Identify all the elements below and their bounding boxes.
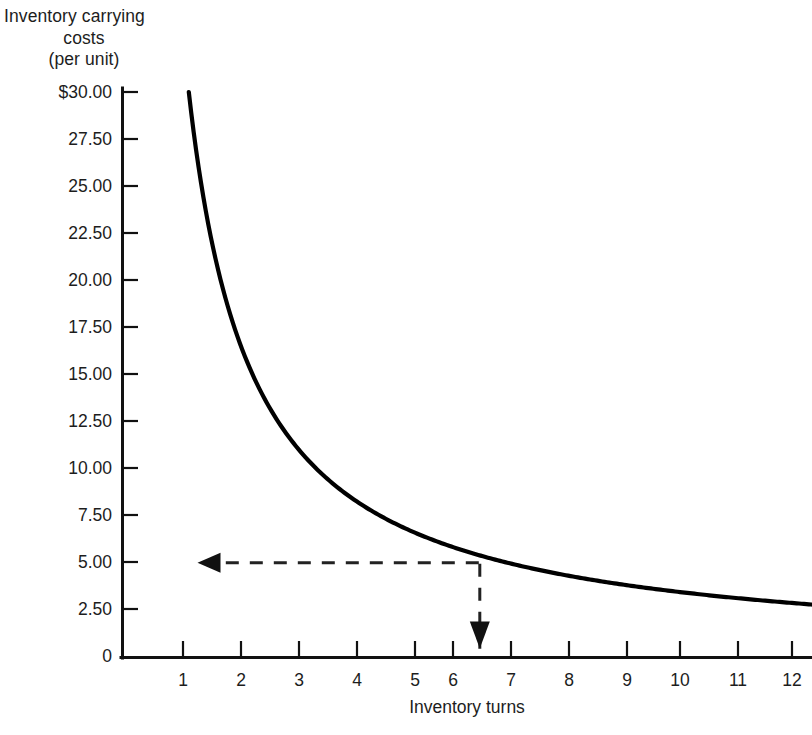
- cost-readout-annotation: [198, 553, 479, 573]
- y-axis-ticks: [122, 92, 138, 609]
- x-axis-ticks: [183, 641, 792, 657]
- cost-readout-arrowhead-icon: [198, 553, 221, 573]
- turns-readout-arrowhead-icon: [470, 622, 490, 649]
- turns-readout-annotation: [470, 564, 490, 654]
- cost-curve-line: [189, 92, 812, 605]
